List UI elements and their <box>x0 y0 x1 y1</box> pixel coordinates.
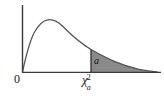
right-tail-shaded-area <box>91 50 157 73</box>
chi-exponent: 2 <box>87 73 91 82</box>
chi-subscript: a <box>87 83 91 92</box>
critical-value-label: χ2a <box>82 73 96 90</box>
origin-label: 0 <box>14 73 20 85</box>
density-curve <box>23 20 158 72</box>
chi-square-distribution-figure: 0 χ2a a <box>0 0 164 96</box>
tail-area-label: a <box>94 56 99 66</box>
